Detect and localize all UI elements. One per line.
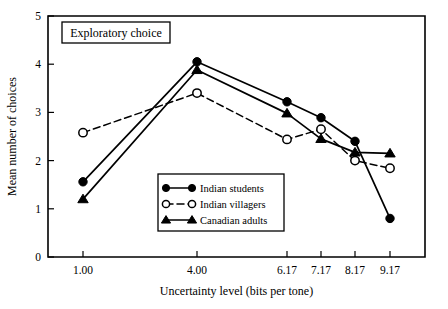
y-tick-label: 4 [35,58,41,70]
legend-label: Indian villagers [200,199,266,210]
series-line [83,93,390,168]
panel-label-box: Exploratory choice [62,22,170,43]
data-point-marker [317,114,325,122]
data-point-marker [283,98,291,106]
data-point-marker [386,214,394,222]
figure-container: 0123451.004.006.177.178.179.17Uncertaint… [0,0,448,309]
y-tick-label: 2 [35,155,41,167]
data-point-marker [188,200,195,207]
data-point-marker [162,184,169,191]
series-2 [79,89,394,173]
x-tick-label: 4.00 [187,264,207,276]
data-point-marker [351,137,359,145]
x-tick-label: 1.00 [73,264,93,276]
axes-layer: 0123451.004.006.177.178.179.17Uncertaint… [5,10,425,298]
chart-legend: Indian studentsIndian villagersCanadian … [158,174,284,231]
data-point-marker [317,125,325,133]
data-point-marker [79,178,87,186]
data-point-marker [283,135,291,143]
y-tick-label: 0 [35,251,41,263]
y-tick-label: 5 [35,10,41,22]
legend-label: Indian students [200,183,264,194]
legend-label: Canadian adults [200,215,267,226]
y-axis-title: Mean number of choices [5,77,19,196]
line-chart: 0123451.004.006.177.178.179.17Uncertaint… [0,0,448,309]
x-tick-label: 6.17 [277,264,297,276]
x-tick-label: 8.17 [345,264,365,276]
data-point-marker [188,184,195,191]
data-point-marker [193,89,201,97]
data-point-marker [386,164,394,172]
x-tick-label: 9.17 [380,264,400,276]
data-point-marker [162,200,169,207]
data-point-marker [351,156,359,164]
data-point-marker [282,108,292,117]
x-tick-label: 7.17 [311,264,331,276]
x-axis-title: Uncertainty level (bits per tone) [160,284,313,298]
data-point-marker [79,128,87,136]
y-tick-label: 3 [35,106,41,118]
panel-label-text: Exploratory choice [70,26,162,40]
y-tick-label: 1 [35,203,41,215]
